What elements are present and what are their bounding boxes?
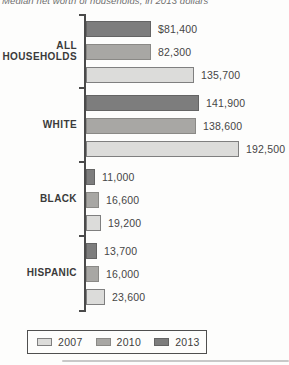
bar-white-2013 bbox=[86, 95, 199, 111]
bar-value-label: 141,900 bbox=[206, 95, 245, 111]
axis-tick-3 bbox=[79, 235, 84, 237]
legend-label-2010: 2010 bbox=[117, 336, 142, 348]
bar-white-2007 bbox=[86, 141, 239, 157]
bar-value-label: 11,000 bbox=[102, 169, 135, 185]
bar-all-households-2013 bbox=[86, 21, 151, 37]
bar-black-2010 bbox=[86, 192, 99, 208]
category-label-hispanic: HISPANIC bbox=[0, 236, 77, 310]
bottom-separator-line bbox=[62, 360, 289, 362]
legend-swatch-2010 bbox=[96, 338, 111, 346]
axis-tick-1 bbox=[79, 87, 84, 89]
axis-tick-4 bbox=[79, 310, 84, 312]
bar-value-label: $81,400 bbox=[158, 21, 197, 37]
bar-value-label: 19,200 bbox=[108, 215, 141, 231]
bar-value-label: 23,600 bbox=[112, 289, 145, 305]
bar-value-label: 135,700 bbox=[201, 67, 240, 83]
bar-value-label: 16,000 bbox=[106, 266, 139, 282]
bar-hispanic-2010 bbox=[86, 266, 99, 282]
legend-item-2007: 2007 bbox=[37, 336, 83, 348]
bar-value-label: 138,600 bbox=[203, 118, 242, 134]
legend-swatch-2013 bbox=[154, 338, 169, 346]
legend: 200720102013 bbox=[27, 330, 207, 354]
legend-label-2007: 2007 bbox=[58, 336, 83, 348]
chart-title: Median net worth of households, in 2013 … bbox=[2, 0, 208, 6]
legend-swatch-2007 bbox=[37, 338, 52, 346]
bar-value-label: 13,700 bbox=[104, 243, 137, 259]
bar-white-2010 bbox=[86, 118, 196, 134]
axis-tick-2 bbox=[79, 161, 84, 163]
category-label-black: BLACK bbox=[0, 162, 77, 236]
bar-hispanic-2007 bbox=[86, 289, 105, 305]
category-label-all-households: ALL HOUSEHOLDS bbox=[0, 14, 77, 88]
bar-black-2013 bbox=[86, 169, 95, 185]
bar-value-label: 192,500 bbox=[246, 141, 285, 157]
bar-chart: Median net worth of households, in 2013 … bbox=[0, 0, 289, 365]
legend-item-2013: 2013 bbox=[154, 336, 200, 348]
legend-label-2013: 2013 bbox=[175, 336, 200, 348]
bar-all-households-2010 bbox=[86, 44, 151, 60]
bar-black-2007 bbox=[86, 215, 101, 231]
bar-hispanic-2013 bbox=[86, 243, 97, 259]
category-label-white: WHITE bbox=[0, 88, 77, 162]
axis-tick-0 bbox=[79, 14, 84, 16]
bar-all-households-2007 bbox=[86, 67, 194, 83]
bar-value-label: 82,300 bbox=[158, 44, 191, 60]
legend-item-2010: 2010 bbox=[96, 336, 142, 348]
bar-value-label: 16,600 bbox=[106, 192, 139, 208]
